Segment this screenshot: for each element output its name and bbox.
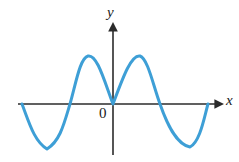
function-curve <box>22 56 208 149</box>
graph-figure: y x 0 <box>0 0 239 162</box>
coordinate-plot <box>0 0 239 162</box>
origin-label: 0 <box>99 106 107 121</box>
y-axis-label: y <box>107 5 114 20</box>
x-axis-label: x <box>226 93 233 108</box>
